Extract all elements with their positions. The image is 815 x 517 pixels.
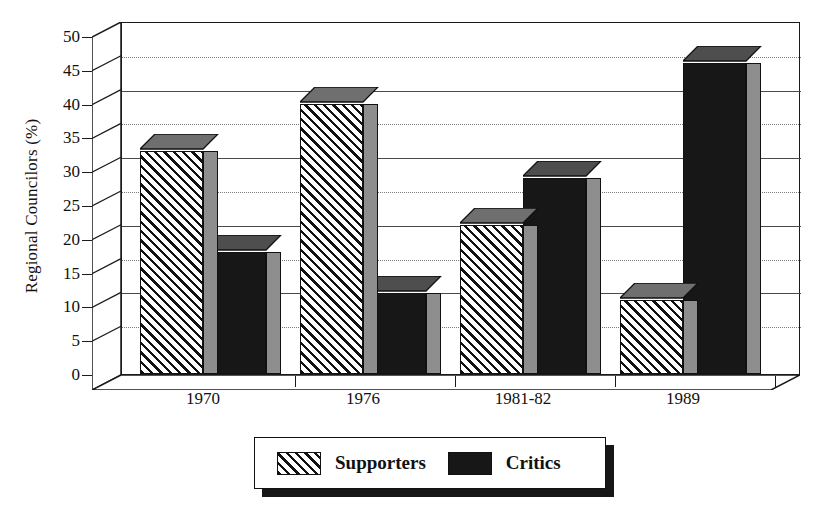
y-tick-label: 40 xyxy=(34,96,80,113)
x-tick-mark xyxy=(455,376,456,387)
bar-side-face xyxy=(266,252,281,374)
bar-front-face xyxy=(300,104,363,374)
x-tick-mark xyxy=(615,376,616,387)
y-tick-label: 20 xyxy=(34,231,80,248)
y-tick-label: 35 xyxy=(34,129,80,146)
legend-item-critics[interactable]: Critics xyxy=(448,452,561,475)
y-tick-label: 15 xyxy=(34,265,80,282)
bar-top-face xyxy=(523,161,605,179)
y-tick-label: 50 xyxy=(34,28,80,45)
bar-group-container xyxy=(92,22,800,390)
bar-side-face xyxy=(586,178,601,374)
x-tick-label: 1970 xyxy=(116,389,290,409)
y-tick-label: 30 xyxy=(34,163,80,180)
bar-supporters-1989[interactable] xyxy=(620,300,683,374)
bar-side-face xyxy=(203,151,218,374)
bar-top-face xyxy=(460,208,542,226)
y-tick-label: 5 xyxy=(34,332,80,349)
bar-top-face xyxy=(140,134,222,152)
chart-canvas: Regional Councilors (%) 0510152025303540… xyxy=(0,0,815,517)
bar-top-face xyxy=(300,87,382,105)
y-tick-label: 25 xyxy=(34,197,80,214)
x-tick-label: 1981-82 xyxy=(436,389,610,409)
legend-item-supporters[interactable]: Supporters xyxy=(277,452,426,475)
bar-side-face xyxy=(746,63,761,374)
y-tick-label: 45 xyxy=(34,62,80,79)
legend-box: Supporters Critics xyxy=(254,437,606,489)
bar-side-face xyxy=(363,104,378,374)
bar-top-face xyxy=(683,46,765,64)
x-tick-mark xyxy=(775,376,776,387)
bar-front-face xyxy=(140,151,203,374)
x-tick-label: 1976 xyxy=(276,389,450,409)
hatch-swatch-icon xyxy=(277,452,321,475)
black-swatch-icon xyxy=(448,452,492,475)
legend-label-supporters: Supporters xyxy=(335,452,426,474)
bar-side-face xyxy=(683,300,698,374)
bar-front-face xyxy=(460,225,523,374)
bar-side-face xyxy=(426,293,441,374)
bar-supporters-1981-82[interactable] xyxy=(460,225,523,374)
bar-side-face xyxy=(523,225,538,374)
y-axis-tick-labels: 05101520253035404550 xyxy=(34,0,80,517)
x-tick-mark xyxy=(295,376,296,387)
bar-top-face xyxy=(620,283,702,301)
x-tick-label: 1989 xyxy=(596,389,770,409)
legend: Supporters Critics xyxy=(254,437,606,489)
y-tick-label: 0 xyxy=(34,366,80,383)
y-tick-label: 10 xyxy=(34,298,80,315)
bar-supporters-1976[interactable] xyxy=(300,104,363,374)
bar-front-face xyxy=(620,300,683,374)
legend-label-critics: Critics xyxy=(506,452,561,474)
bar-supporters-1970[interactable] xyxy=(140,151,203,374)
